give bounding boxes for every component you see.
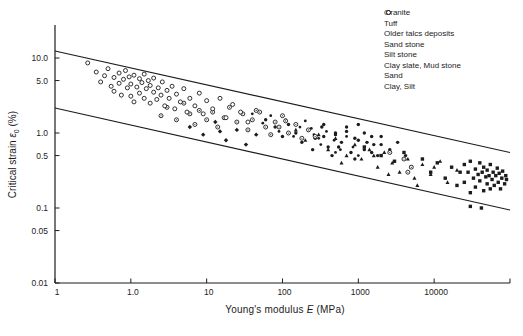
data-point (235, 120, 239, 124)
data-point (137, 91, 141, 95)
data-point (117, 71, 121, 75)
data-point (294, 122, 298, 126)
data-point (213, 120, 217, 124)
data-point (231, 102, 235, 106)
legend-row: Clay, Silt (384, 82, 461, 93)
data-point (455, 168, 459, 172)
data-point (406, 157, 410, 161)
data-point (363, 131, 366, 134)
data-point (478, 179, 481, 182)
y-tick-label: 1.0 (36, 128, 48, 138)
data-point (367, 148, 371, 152)
data-point (421, 157, 424, 160)
data-point (280, 114, 284, 118)
data-point (239, 110, 243, 114)
legend-label: Clay slate, Mud stone (384, 61, 461, 72)
data-point (353, 137, 356, 140)
data-point (345, 125, 348, 128)
data-point (345, 135, 348, 138)
data-point (499, 187, 502, 190)
data-point (376, 165, 380, 169)
data-point (325, 130, 328, 133)
data-point (178, 100, 182, 104)
critical-strain-chart: 10.05.01.00.50.10.050.0111.0101001000100… (0, 0, 523, 336)
data-point (132, 100, 136, 104)
data-point (469, 205, 472, 208)
data-point (142, 72, 146, 76)
data-point (174, 92, 178, 96)
legend-row: Tuff (384, 19, 461, 30)
data-point (393, 160, 396, 163)
data-point (398, 170, 402, 174)
data-point (235, 128, 239, 132)
data-point (201, 132, 205, 136)
data-point (313, 134, 317, 138)
data-point (474, 185, 477, 188)
data-point (137, 77, 141, 81)
data-point (264, 118, 267, 121)
data-point (432, 165, 436, 169)
data-point (112, 75, 116, 79)
data-point (201, 112, 205, 116)
legend-row: Older talcs deposits (384, 29, 461, 40)
data-point (340, 141, 343, 144)
data-point (458, 171, 461, 174)
x-tick-label: 1 (55, 287, 60, 297)
x-tick-label: 1.0 (127, 287, 139, 297)
data-point (485, 168, 488, 171)
data-point (463, 181, 466, 184)
data-point (123, 69, 127, 73)
data-point (129, 82, 133, 86)
data-point (94, 70, 98, 74)
data-point (333, 136, 337, 140)
x-axis-title-prefix: Young's modulus (225, 304, 306, 315)
data-point (106, 67, 110, 71)
x-tick-label: 10 (204, 287, 214, 297)
data-point (317, 137, 320, 140)
legend-row: Clay slate, Mud stone (384, 61, 461, 72)
data-point (163, 104, 167, 108)
data-point (345, 153, 349, 157)
data-point (489, 163, 492, 166)
data-point (135, 85, 139, 89)
data-point (127, 75, 131, 79)
data-point (482, 189, 485, 192)
x-tick-label: 1000 (351, 287, 370, 297)
data-point (148, 101, 152, 105)
data-point (480, 206, 483, 209)
series-clay-slate-mud-stone (294, 128, 459, 187)
data-point (497, 181, 500, 184)
series-clay-silt (86, 61, 250, 124)
data-point (480, 171, 483, 174)
data-point (386, 172, 390, 176)
data-point (170, 84, 174, 88)
data-point (337, 145, 340, 148)
data-point (474, 167, 477, 170)
data-point (300, 136, 304, 140)
data-point (396, 141, 399, 144)
data-point (197, 91, 201, 95)
data-point (349, 151, 352, 154)
data-point (484, 175, 487, 178)
data-point (406, 170, 410, 174)
y-axis-title: Critical strain ε0 (%) (7, 45, 20, 265)
y-tick-label: 5.0 (36, 76, 48, 86)
series-sand (159, 101, 413, 174)
data-point (224, 138, 228, 142)
data-point (379, 143, 382, 146)
data-point (146, 79, 150, 83)
data-point (476, 173, 479, 176)
data-point (365, 141, 368, 144)
data-point (287, 123, 290, 126)
data-point (292, 135, 295, 138)
legend-label: Sand (384, 71, 403, 82)
data-point (415, 183, 419, 187)
data-point (117, 81, 121, 85)
data-point (160, 80, 164, 84)
data-point (345, 130, 348, 133)
data-point (409, 165, 413, 169)
data-point (491, 171, 494, 174)
data-point (193, 122, 197, 126)
y-tick-label: 0.1 (36, 203, 48, 213)
legend-label: Tuff (384, 19, 397, 30)
